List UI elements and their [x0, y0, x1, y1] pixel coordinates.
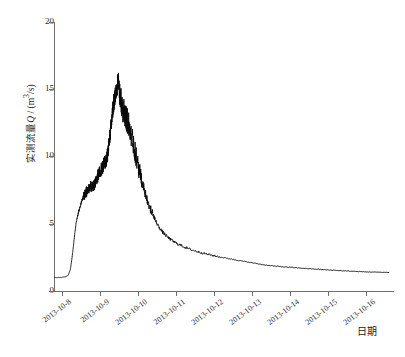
chart-figure: 20 15 10 5 0 2013-10-8 2013-10-9 2013-10…: [0, 0, 405, 357]
x-tick-mark-7: [328, 291, 329, 296]
y-axis-title-unit: /s): [26, 84, 36, 94]
x-tick-mark-4: [214, 291, 215, 296]
plot-area: [54, 22, 393, 291]
y-axis-title: 实测流量Q / (m3/s): [21, 39, 36, 209]
y-axis-title-symbol: Q: [26, 116, 36, 123]
x-axis-title: 日期: [357, 326, 377, 337]
x-tick-mark-2: [138, 291, 139, 296]
x-tick-mark-8: [366, 291, 367, 296]
discharge-series-plot: [54, 22, 393, 291]
x-tick-mark-5: [252, 291, 253, 296]
x-tick-mark-3: [176, 291, 177, 296]
x-tick-mark-1: [100, 291, 101, 296]
x-tick-mark-0: [62, 291, 63, 296]
y-axis-title-name: 实测流量: [26, 123, 36, 163]
y-axis-title-exponent: 3: [22, 94, 31, 98]
x-tick-mark-6: [290, 291, 291, 296]
x-axis-line: [54, 291, 394, 292]
discharge-line: [54, 73, 388, 278]
y-axis-title-sep: / (m: [26, 98, 36, 116]
